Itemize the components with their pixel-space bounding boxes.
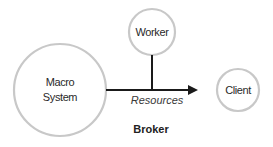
broker-diagram: Macro System Worker Client Resources Bro… — [0, 0, 273, 147]
macro-system-circle — [14, 44, 106, 136]
worker-node: Worker — [129, 9, 175, 55]
resources-label: Resources — [131, 94, 184, 106]
arrowhead-icon — [188, 85, 198, 95]
macro-system-label-line1: Macro — [46, 76, 75, 88]
worker-label: Worker — [136, 26, 170, 38]
client-node: Client — [217, 69, 259, 111]
macro-system-node: Macro System — [14, 44, 106, 136]
client-label: Client — [225, 84, 251, 96]
macro-system-label-line2: System — [43, 91, 78, 103]
broker-label: Broker — [133, 123, 169, 135]
